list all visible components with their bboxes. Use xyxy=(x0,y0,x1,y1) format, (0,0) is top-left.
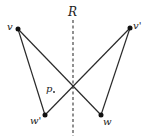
reflection-diagram: R v v' w' w p xyxy=(0,0,147,136)
segment-vprime-wprime xyxy=(45,28,130,115)
segment-vprime-w xyxy=(101,28,130,115)
segment-v-wprime xyxy=(18,29,45,115)
label-v: v xyxy=(7,21,13,32)
region-label-p: p xyxy=(46,83,53,94)
label-v-prime: v' xyxy=(133,20,141,31)
segment-v-w xyxy=(18,29,101,115)
point-w-prime xyxy=(43,113,48,118)
axis-label: R xyxy=(67,5,77,19)
point-v xyxy=(16,27,21,32)
point-v-prime xyxy=(128,26,133,31)
label-w-prime: w' xyxy=(30,115,41,126)
region-p-dot xyxy=(53,91,55,93)
label-w: w xyxy=(103,116,112,127)
